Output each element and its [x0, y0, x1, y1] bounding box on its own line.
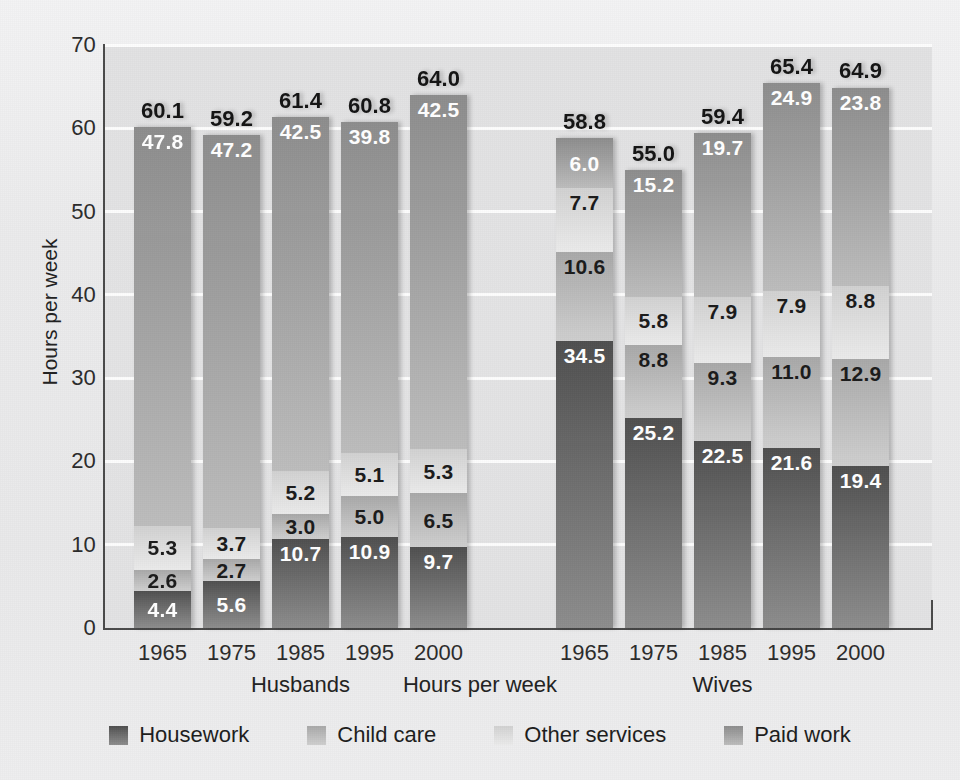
segment-value-label: 23.8 — [840, 92, 882, 113]
bar-segment: 4.4 — [134, 591, 191, 628]
bar-segment: 42.5 — [272, 117, 329, 471]
stacked-bar: 34.510.67.76.058.8 — [556, 138, 613, 628]
gridline — [104, 44, 932, 47]
x-tick-label: 1975 — [192, 640, 272, 666]
segment-value-label: 15.2 — [633, 174, 675, 195]
bar-segment: 19.7 — [694, 133, 751, 297]
bar-segment: 9.7 — [410, 547, 467, 628]
segment-value-label: 24.9 — [771, 87, 813, 108]
bar-segment: 39.8 — [341, 122, 398, 453]
bar-segment: 23.8 — [832, 88, 889, 286]
bar-segment: 5.1 — [341, 453, 398, 495]
legend-swatch — [109, 726, 128, 745]
legend-item: Child care — [307, 722, 436, 748]
legend-swatch — [307, 726, 326, 745]
y-axis-line — [103, 44, 105, 629]
bar-segment: 6.0 — [556, 138, 613, 188]
stacked-bar: 19.412.98.823.864.9 — [832, 87, 889, 628]
stacked-bar: 4.42.65.347.860.1 — [134, 127, 191, 628]
bar-segment: 8.8 — [832, 286, 889, 359]
x-tick-label: 2000 — [399, 640, 479, 666]
bar-total-label: 61.4 — [279, 88, 322, 114]
figure-page: 010203040506070 Hours per week 4.42.65.3… — [0, 0, 960, 780]
x-tick-label: 1985 — [683, 640, 763, 666]
y-tick-label: 60 — [50, 115, 96, 141]
legend-label: Other services — [524, 722, 666, 748]
segment-value-label: 5.3 — [424, 461, 454, 482]
segment-value-label: 5.8 — [639, 310, 669, 331]
stacked-bar: 21.611.07.924.965.4 — [763, 83, 820, 628]
bar-total-label: 55.0 — [632, 141, 675, 167]
bar-segment: 5.6 — [203, 581, 260, 628]
bar-segment: 7.9 — [694, 297, 751, 363]
segment-value-label: 7.9 — [708, 301, 738, 322]
legend-label: Child care — [337, 722, 436, 748]
bar-segment: 5.0 — [341, 496, 398, 538]
legend-swatch — [494, 726, 513, 745]
bar-total-label: 60.1 — [141, 98, 184, 124]
segment-value-label: 8.8 — [639, 349, 669, 370]
segment-value-label: 34.5 — [564, 345, 606, 366]
x-tick-label: 1995 — [752, 640, 832, 666]
x-axis-label: Hours per week — [330, 672, 630, 698]
bar-segment: 6.5 — [410, 493, 467, 547]
stacked-bar: 5.62.73.747.259.2 — [203, 135, 260, 628]
segment-value-label: 2.6 — [148, 570, 178, 591]
y-axis-label: Hours per week — [38, 202, 62, 422]
segment-value-label: 2.7 — [217, 560, 247, 581]
bar-segment: 42.5 — [410, 95, 467, 449]
bar-segment: 34.5 — [556, 341, 613, 628]
y-tick-label: 20 — [50, 448, 96, 474]
bar-segment: 22.5 — [694, 441, 751, 628]
bar-segment: 7.9 — [763, 291, 820, 357]
segment-value-label: 7.9 — [777, 295, 807, 316]
bar-segment: 9.3 — [694, 363, 751, 440]
stacked-bar: 22.59.37.919.759.4 — [694, 133, 751, 628]
segment-value-label: 8.8 — [846, 290, 876, 311]
x-tick-label: 1975 — [614, 640, 694, 666]
bar-segment: 47.8 — [134, 127, 191, 525]
segment-value-label: 42.5 — [280, 121, 322, 142]
segment-value-label: 21.6 — [771, 452, 813, 473]
bar-segment: 10.7 — [272, 539, 329, 628]
segment-value-label: 5.3 — [148, 537, 178, 558]
bar-total-label: 60.8 — [348, 93, 391, 119]
legend-item: Housework — [109, 722, 249, 748]
segment-value-label: 9.7 — [424, 551, 454, 572]
segment-value-label: 19.7 — [702, 137, 744, 158]
segment-value-label: 11.0 — [771, 361, 812, 382]
segment-value-label: 5.0 — [355, 506, 385, 527]
segment-value-label: 6.0 — [570, 153, 600, 174]
bar-total-label: 59.2 — [210, 106, 253, 132]
bar-segment: 5.2 — [272, 471, 329, 514]
segment-value-label: 6.5 — [424, 510, 454, 531]
bar-segment: 11.0 — [763, 357, 820, 449]
x-tick-label: 2000 — [821, 640, 901, 666]
y-tick-label: 70 — [50, 32, 96, 58]
stacked-bar: 9.76.55.342.564.0 — [410, 95, 467, 628]
bar-segment: 2.6 — [134, 570, 191, 592]
y-tick-label: 10 — [50, 532, 96, 558]
bar-segment: 5.3 — [134, 526, 191, 570]
bar-segment: 19.4 — [832, 466, 889, 628]
bar-segment: 21.6 — [763, 448, 820, 628]
segment-value-label: 10.9 — [349, 541, 391, 562]
x-tick-label: 1965 — [545, 640, 625, 666]
legend-item: Other services — [494, 722, 666, 748]
segment-value-label: 3.0 — [286, 516, 316, 537]
bar-segment: 5.8 — [625, 297, 682, 345]
bar-segment: 10.6 — [556, 252, 613, 340]
bar-total-label: 64.9 — [839, 58, 882, 84]
legend: HouseworkChild careOther servicesPaid wo… — [0, 722, 960, 748]
bar-segment: 2.7 — [203, 559, 260, 581]
bar-total-label: 64.0 — [417, 66, 460, 92]
segment-value-label: 39.8 — [349, 126, 391, 147]
bar-total-label: 58.8 — [563, 109, 606, 135]
bar-total-label: 65.4 — [770, 54, 813, 80]
segment-value-label: 12.9 — [840, 363, 882, 384]
bar-segment: 25.2 — [625, 418, 682, 628]
segment-value-label: 47.8 — [142, 131, 184, 152]
legend-swatch — [724, 726, 743, 745]
plot-right-border — [931, 600, 933, 629]
bar-segment: 5.3 — [410, 449, 467, 493]
